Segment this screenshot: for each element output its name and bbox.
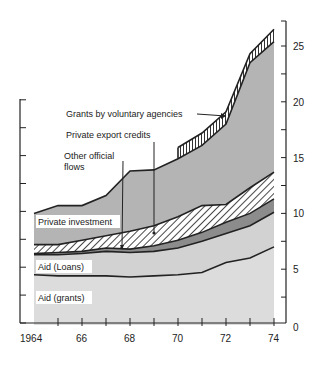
y-tick-label: 0 (293, 322, 299, 333)
y-tick-label: 5 (293, 264, 299, 275)
export-credits-label: Private export credits (66, 130, 151, 140)
x-tick-label: 68 (124, 333, 136, 344)
private-investment-label: Private investment (38, 217, 113, 227)
x-tick-label: 66 (76, 333, 88, 344)
other-official-label-1: Other official (64, 151, 114, 161)
aid-loans-label: Aid (Loans) (38, 262, 84, 272)
other-official-label-2: flows (64, 162, 85, 172)
x-tick-label: 72 (220, 333, 232, 344)
x-tick-label: 74 (268, 333, 280, 344)
y-tick-label: 25 (293, 41, 305, 52)
x-tick-label: 1964 (20, 333, 43, 344)
export-arrowhead (152, 231, 155, 234)
x-tick-label: 70 (172, 333, 184, 344)
aid-grants-label: Aid (grants) (38, 293, 85, 303)
y-tick-label: 10 (293, 208, 305, 219)
y-tick-label: 20 (293, 97, 305, 108)
voluntary-label: Grants by voluntary agencies (66, 109, 183, 119)
stacked-area-chart: 196466687072740510152025 Grants by volun… (0, 0, 321, 365)
y-tick-label: 15 (293, 153, 305, 164)
